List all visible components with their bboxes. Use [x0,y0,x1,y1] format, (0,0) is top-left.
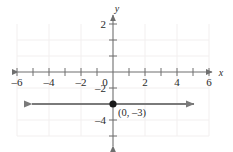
coordinate-plane-figure: –6 –4 –2 0 2 4 6 2 –2 –4 x y (0, –3) [0,0,233,152]
y-tick-label-2: 2 [101,18,107,30]
x-tick-label-6: 6 [206,76,212,88]
y-axis-label: y [114,3,120,14]
point-marker-y-intercept [109,100,116,107]
graph-canvas: –6 –4 –2 0 2 4 6 2 –2 –4 x y (0, –3) [0,0,233,152]
x-axis-label: x [218,67,224,78]
x-tick-label--4: –4 [43,76,56,88]
point-label-y-intercept: (0, –3) [118,107,146,119]
x-tick-label-2: 2 [142,76,148,88]
x-tick-label--2: –2 [75,76,87,88]
x-tick-label--6: –6 [11,76,24,88]
y-tick-label--2: –2 [94,82,106,94]
x-tick-label-4: 4 [174,76,180,88]
y-tick-label--4: –4 [94,114,107,126]
